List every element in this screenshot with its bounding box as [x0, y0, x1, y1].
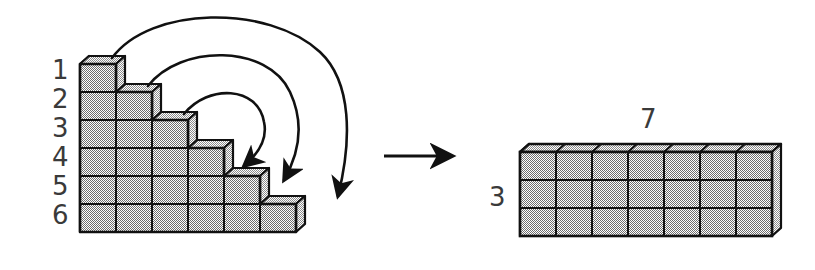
- riser-side-1: [116, 56, 125, 92]
- row-label-1: 1: [52, 55, 69, 85]
- rectangle-width-label: 7: [640, 104, 657, 134]
- rectangle-right-face: [772, 144, 781, 236]
- figure-canvas: 1 2 3 4 5 6: [0, 0, 815, 270]
- riser-side-3: [188, 112, 197, 148]
- rectangle-height-label: 3: [489, 182, 506, 212]
- staircase-to-rectangle-diagram: 1 2 3 4 5 6: [0, 0, 815, 270]
- row-label-5: 5: [52, 171, 69, 201]
- riser-side-6: [296, 196, 305, 232]
- riser-side-2: [152, 84, 161, 120]
- row-label-4: 4: [52, 142, 69, 172]
- staircase-row-labels: 1 2 3 4 5 6: [52, 55, 69, 230]
- riser-side-5: [260, 168, 269, 204]
- row-label-2: 2: [52, 84, 69, 114]
- row-label-3: 3: [52, 113, 69, 143]
- rectangle-front-face: [520, 152, 772, 236]
- riser-side-4: [224, 140, 233, 176]
- row-label-6: 6: [52, 200, 69, 230]
